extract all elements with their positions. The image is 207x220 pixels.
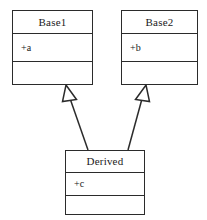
uml-diagram-canvas: Base1 +a Base2 +b Derived +c (0, 0, 207, 220)
uml-class-base2[interactable]: Base2 +b (121, 10, 198, 85)
class-name-base1: Base1 (39, 17, 67, 28)
class-operations-compartment-derived (66, 195, 144, 214)
class-attributes-compartment-base1: +a (13, 33, 92, 61)
class-attribute-base1-0: +a (13, 43, 31, 53)
class-name-compartment-base1: Base1 (13, 11, 92, 33)
class-attributes-compartment-derived: +c (66, 172, 144, 195)
class-name-compartment-base2: Base2 (122, 11, 197, 33)
hollow-triangle-arrowhead-base1 (63, 85, 77, 102)
class-attributes-compartment-base2: +b (122, 33, 197, 61)
hollow-triangle-arrowhead-base2 (136, 85, 150, 102)
generalization-derived-to-base1 (63, 85, 89, 150)
generalization-line-base2 (128, 97, 143, 150)
generalization-line-base1 (70, 97, 89, 150)
class-attribute-base2-0: +b (122, 43, 141, 53)
class-name-base2: Base2 (146, 17, 174, 28)
uml-class-derived[interactable]: Derived +c (65, 150, 145, 215)
class-operations-compartment-base2 (122, 61, 197, 84)
class-operations-compartment-base1 (13, 61, 92, 84)
uml-class-base1[interactable]: Base1 +a (12, 10, 93, 85)
class-name-compartment-derived: Derived (66, 151, 144, 172)
class-attribute-derived-0: +c (66, 179, 84, 189)
generalization-derived-to-base2 (128, 85, 150, 150)
class-name-derived: Derived (87, 156, 124, 167)
